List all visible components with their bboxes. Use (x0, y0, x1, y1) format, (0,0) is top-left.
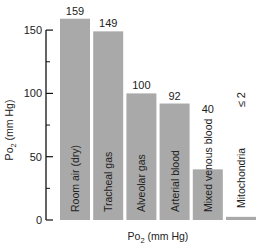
y-axis-title: Po2 (mm Hg) (3, 100, 18, 161)
value-label: 92 (168, 90, 180, 102)
value-label: 40 (202, 103, 214, 115)
y-tick-label: 50 (30, 151, 42, 163)
bar (226, 217, 256, 220)
category-label: Room air (dry) (69, 145, 81, 212)
category-label: Mitochondria (235, 148, 247, 208)
value-label: ≤ 2 (235, 92, 247, 107)
po2-bar-chart: 050100150 Room air (dry)159Tracheal gas1… (0, 0, 264, 248)
category-label: Arterial blood (169, 150, 181, 212)
value-label: 149 (99, 17, 117, 29)
y-tick-label: 0 (36, 214, 42, 226)
category-label: Mixed venous blood (202, 118, 214, 212)
category-label: Tracheal gas (102, 152, 114, 212)
y-tick-label: 100 (24, 87, 42, 99)
x-axis-title: Po2 (mm Hg) (128, 230, 189, 245)
bars: Room air (dry)159Tracheal gas149Alveolar… (60, 5, 256, 220)
category-label: Alveolar gas (135, 154, 147, 212)
value-label: 159 (66, 5, 84, 17)
value-label: 100 (132, 79, 150, 91)
y-tick-label: 150 (24, 24, 42, 36)
y-axis: 050100150 (24, 24, 53, 226)
